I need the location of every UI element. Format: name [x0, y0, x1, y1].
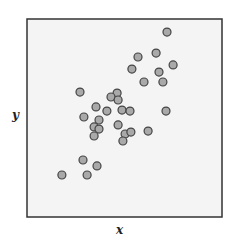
- data-point: [58, 171, 66, 179]
- data-point: [128, 65, 136, 73]
- data-point: [144, 127, 152, 135]
- data-point: [92, 103, 100, 111]
- data-point: [93, 162, 101, 170]
- data-point: [155, 68, 163, 76]
- data-point: [90, 132, 98, 140]
- data-point: [162, 107, 170, 115]
- data-point: [152, 49, 160, 57]
- data-point: [140, 78, 148, 86]
- data-point: [134, 53, 142, 61]
- data-point: [79, 156, 87, 164]
- data-point: [126, 107, 134, 115]
- data-point: [103, 107, 111, 115]
- data-point: [159, 78, 167, 86]
- plot-area: [27, 19, 222, 217]
- data-point: [114, 121, 122, 129]
- data-point: [118, 106, 126, 114]
- data-point: [163, 28, 171, 36]
- data-point: [76, 88, 84, 96]
- data-point: [119, 137, 127, 145]
- data-point: [127, 128, 135, 136]
- data-point: [83, 171, 91, 179]
- y-axis-label: y: [12, 108, 19, 122]
- data-point: [80, 113, 88, 121]
- scatter-plot: [0, 0, 235, 244]
- data-point: [95, 116, 103, 124]
- x-axis-label: x: [116, 223, 123, 237]
- data-point: [169, 61, 177, 69]
- data-point: [114, 96, 122, 104]
- data-point: [95, 125, 103, 133]
